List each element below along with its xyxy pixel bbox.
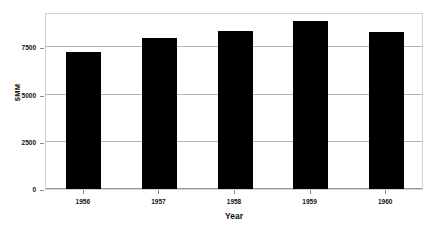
bar <box>293 21 328 189</box>
y-tick-label: 7500 <box>0 44 36 51</box>
x-tick-label: 1957 <box>138 198 178 205</box>
x-tick-mark <box>310 190 311 194</box>
plot-inner <box>46 14 422 189</box>
x-tick-mark <box>83 190 84 194</box>
y-tick-mark <box>40 143 44 144</box>
x-tick-mark <box>158 190 159 194</box>
x-axis-title: Year <box>45 211 423 221</box>
y-tick-mark <box>40 190 44 191</box>
bar <box>218 31 253 189</box>
x-tick-label: 1960 <box>365 198 405 205</box>
bar <box>369 32 404 189</box>
bar <box>66 52 101 189</box>
y-tick-mark <box>40 48 44 49</box>
y-tick-mark <box>40 96 44 97</box>
y-tick-label: 2500 <box>0 139 36 146</box>
y-tick-label: 5000 <box>0 92 36 99</box>
bar <box>142 38 177 189</box>
y-tick-label: 0 <box>0 186 36 193</box>
x-tick-mark <box>385 190 386 194</box>
x-tick-label: 1956 <box>63 198 103 205</box>
x-tick-label: 1959 <box>290 198 330 205</box>
bar-chart: $MM 0250050007500 Year 19561957195819591… <box>0 0 435 235</box>
plot-area <box>45 13 423 190</box>
x-tick-mark <box>234 190 235 194</box>
x-tick-label: 1958 <box>214 198 254 205</box>
